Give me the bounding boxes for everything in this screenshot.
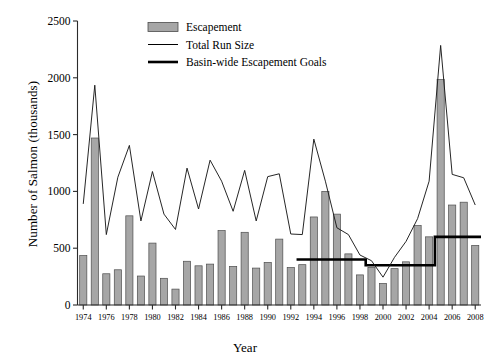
- x-tick-label-2008: 2008: [467, 313, 484, 322]
- bar-1980: [149, 243, 156, 305]
- bar-1985: [207, 264, 214, 305]
- x-tick-label-1986: 1986: [213, 313, 230, 322]
- bar-2000: [379, 283, 386, 305]
- bar-1975: [91, 138, 98, 305]
- x-tick-label-1996: 1996: [329, 313, 346, 322]
- bar-1981: [160, 278, 167, 305]
- bar-1977: [114, 270, 121, 305]
- x-tick-label-1974: 1974: [75, 313, 92, 322]
- legend-label-2: Basin-wide Escapement Goals: [186, 56, 327, 69]
- bar-1987: [230, 266, 237, 305]
- bar-1995: [322, 191, 329, 305]
- legend-label-1: Total Run Size: [186, 39, 254, 51]
- chart-figure: 0500100015002000250019741976197819801982…: [0, 0, 490, 364]
- legend: EscapementTotal Run SizeBasin-wide Escap…: [148, 21, 327, 69]
- bar-1986: [218, 231, 225, 305]
- escapement-bars-group: [80, 80, 479, 306]
- bar-1978: [126, 216, 133, 305]
- x-tick-label-2002: 2002: [398, 313, 415, 322]
- bar-1989: [253, 268, 260, 305]
- bar-2006: [449, 205, 456, 305]
- bar-1983: [183, 261, 190, 305]
- bar-2001: [391, 269, 398, 305]
- y-tick-label-1500: 1500: [48, 129, 71, 141]
- x-tick-label-2000: 2000: [375, 313, 392, 322]
- x-tick-label-1994: 1994: [306, 313, 323, 322]
- bar-1990: [264, 262, 271, 305]
- x-tick-label-1990: 1990: [259, 313, 276, 322]
- y-axis-title: Number of Salmon (thousands): [25, 39, 41, 289]
- bar-1994: [310, 217, 317, 305]
- legend-swatch-escapement: [148, 23, 178, 32]
- x-tick-label-1976: 1976: [98, 313, 115, 322]
- x-tick-label-2004: 2004: [421, 313, 438, 322]
- bar-1974: [80, 256, 87, 305]
- x-axis-title: Year: [0, 340, 490, 356]
- y-tick-label-2500: 2500: [48, 15, 71, 27]
- bar-1976: [103, 274, 110, 305]
- x-tick-label-2006: 2006: [444, 313, 461, 322]
- bar-2002: [402, 262, 409, 305]
- bar-1992: [287, 268, 294, 305]
- x-tick-label-1988: 1988: [236, 313, 253, 322]
- bar-1982: [172, 289, 179, 305]
- x-tick-label-1980: 1980: [144, 313, 161, 322]
- bar-1988: [241, 232, 248, 305]
- bar-1984: [195, 266, 202, 305]
- bar-2005: [437, 80, 444, 306]
- x-tick-label-1982: 1982: [167, 313, 184, 322]
- legend-label-0: Escapement: [186, 21, 242, 34]
- bar-1991: [276, 239, 283, 305]
- bar-1993: [299, 265, 306, 305]
- bar-1997: [345, 254, 352, 305]
- x-tick-label-1984: 1984: [190, 313, 207, 322]
- chart-canvas: 0500100015002000250019741976197819801982…: [0, 0, 490, 364]
- bar-1998: [356, 275, 363, 305]
- y-tick-label-500: 500: [53, 242, 71, 254]
- x-tick-label-1992: 1992: [282, 313, 299, 322]
- y-tick-label-0: 0: [65, 299, 71, 311]
- x-tick-label-1978: 1978: [121, 313, 138, 322]
- bar-2007: [460, 202, 467, 305]
- bar-1979: [137, 276, 144, 305]
- y-tick-label-1000: 1000: [48, 185, 71, 197]
- bar-1999: [368, 268, 375, 305]
- x-tick-label-1998: 1998: [352, 313, 369, 322]
- y-tick-label-2000: 2000: [48, 72, 71, 84]
- bar-2004: [426, 237, 433, 305]
- bar-2008: [472, 245, 479, 305]
